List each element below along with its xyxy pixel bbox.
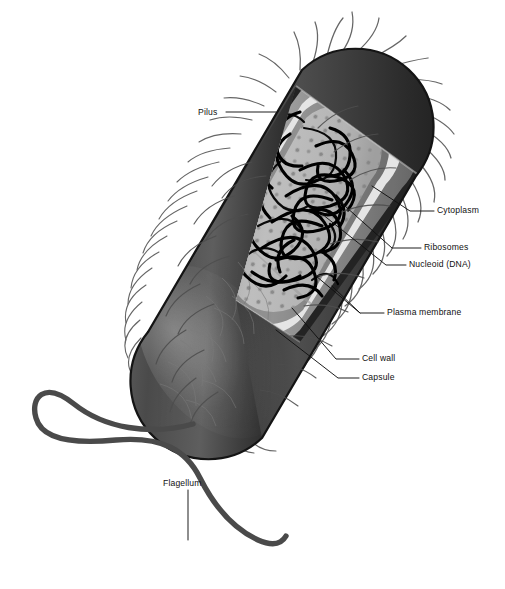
label-cell-wall: Cell wall	[362, 354, 395, 363]
label-flagellum: Flagellum	[163, 479, 202, 488]
label-ribosomes-text: Ribosomes	[424, 242, 468, 252]
label-nucleoid: Nucleoid (DNA)	[409, 260, 471, 269]
label-nucleoid-text: Nucleoid (DNA)	[409, 259, 471, 269]
label-plasma-membrane: Plasma membrane	[387, 308, 461, 317]
label-cytoplasm-text: Cytoplasm	[437, 205, 479, 215]
cell-body	[100, 30, 470, 470]
label-cell-wall-text: Cell wall	[362, 353, 395, 363]
label-capsule: Capsule	[362, 373, 395, 382]
bacterial-cell-diagram	[0, 0, 505, 589]
label-plasma-membrane-text: Plasma membrane	[387, 307, 461, 317]
label-flagellum-text: Flagellum	[163, 478, 202, 488]
label-pilus-text: Pilus	[198, 107, 217, 117]
label-cytoplasm: Cytoplasm	[437, 206, 479, 215]
label-ribosomes: Ribosomes	[424, 243, 468, 252]
label-capsule-text: Capsule	[362, 372, 395, 382]
label-pilus: Pilus	[198, 108, 217, 117]
